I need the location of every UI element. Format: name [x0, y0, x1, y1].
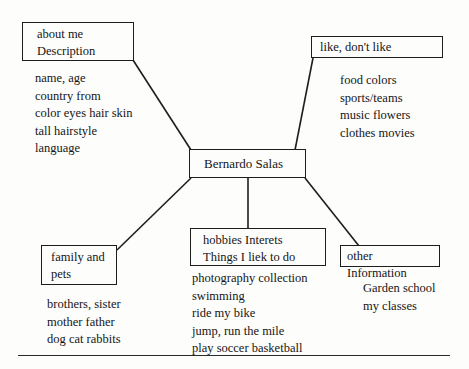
detail-item: country from [35, 88, 133, 106]
node-hobbies-line-1: hobbies Interets [203, 232, 317, 249]
node-other-information[interactable]: other Information [340, 245, 440, 267]
detail-item: jump, run the mile [192, 323, 308, 341]
detail-item: tall hairstyle [35, 123, 133, 141]
bottom-divider [18, 355, 450, 356]
detail-item: brothers, sister [47, 296, 121, 314]
connector-about-me [133, 60, 191, 150]
detail-item: name, age [35, 70, 133, 88]
detail-item: sports/teams [340, 90, 415, 108]
detail-item: music flowers [340, 107, 415, 125]
node-about-me-line-1: about me [37, 26, 125, 43]
detail-item: clothes movies [340, 125, 415, 143]
detail-item: dog cat rabbits [47, 331, 121, 349]
node-family-line-1: family and [51, 249, 108, 266]
node-about-me-line-2: Description [37, 43, 125, 60]
node-other-information-line-1: other Information [347, 248, 433, 281]
detail-item: my classes [363, 298, 436, 316]
details-likes: food colors sports/teams music flowers c… [340, 72, 415, 142]
node-about-me[interactable]: about me Description [22, 22, 134, 61]
node-likes-line-1: like, don't like [320, 39, 436, 56]
detail-item: photography collection [192, 270, 308, 288]
node-likes[interactable]: like, don't like [311, 36, 443, 58]
concept-map-canvas: about me Description name, age country f… [0, 0, 469, 369]
connector-family [117, 178, 191, 250]
details-about-me: name, age country from color eyes hair s… [35, 70, 133, 158]
node-family-and-pets[interactable]: family and pets [41, 245, 117, 285]
node-center-label: Bernardo Salas [204, 155, 297, 172]
detail-item: ride my bike [192, 305, 308, 323]
detail-item: Garden school [363, 280, 436, 298]
node-hobbies[interactable]: hobbies Interets Things I liek to do [190, 228, 326, 266]
detail-item: mother father [47, 314, 121, 332]
detail-item: food colors [340, 72, 415, 90]
details-other-information: Garden school my classes [363, 280, 436, 315]
detail-item: color eyes hair skin [35, 105, 133, 123]
detail-item: swimming [192, 288, 308, 306]
connector-likes [295, 58, 313, 150]
node-family-line-2: pets [51, 266, 108, 283]
detail-item: language [35, 140, 133, 158]
details-family-and-pets: brothers, sister mother father dog cat r… [47, 296, 121, 349]
node-hobbies-line-2: Things I liek to do [203, 249, 317, 266]
node-center-bernardo-salas[interactable]: Bernardo Salas [189, 149, 306, 178]
details-hobbies: photography collection swimming ride my … [192, 270, 308, 358]
